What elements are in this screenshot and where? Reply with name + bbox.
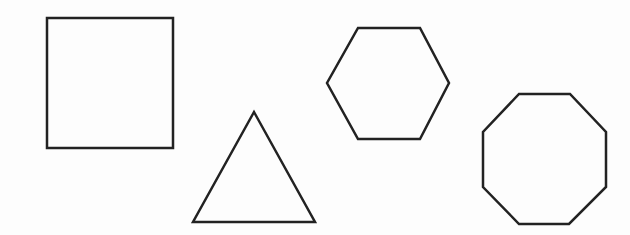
shapes-canvas	[0, 0, 630, 235]
shapes-diagram	[0, 0, 630, 235]
octagon-shape	[483, 94, 606, 224]
triangle-shape	[193, 112, 315, 222]
hexagon-shape	[327, 28, 449, 139]
square-shape	[47, 18, 173, 148]
